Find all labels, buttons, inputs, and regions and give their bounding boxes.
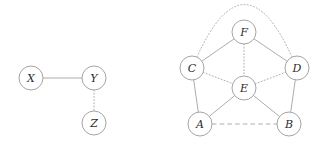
edge-e-b: [253, 95, 279, 116]
node-d[interactable]: D: [285, 56, 309, 80]
edge-c-f: [202, 39, 234, 61]
figure-canvas: XYZFCDEAB: [0, 0, 329, 149]
node-label-a: A: [195, 118, 204, 131]
node-label-f: F: [239, 26, 248, 39]
edge-f-d: [254, 39, 287, 62]
node-label-d: D: [292, 62, 302, 75]
node-f[interactable]: F: [232, 20, 256, 44]
node-label-x: X: [26, 72, 36, 85]
node-label-c: C: [188, 62, 197, 75]
edge-c-e: [203, 72, 233, 83]
edge-d-b: [291, 80, 296, 112]
node-e[interactable]: E: [232, 76, 256, 100]
graph-figure: XYZFCDEAB: [0, 0, 329, 149]
node-a[interactable]: A: [188, 112, 212, 136]
node-z[interactable]: Z: [82, 111, 106, 135]
node-label-b: B: [284, 118, 293, 131]
edge-a-e: [209, 96, 234, 117]
edge-c-a: [194, 80, 199, 112]
node-x[interactable]: X: [19, 66, 43, 90]
edge-e-d: [255, 72, 286, 84]
node-y[interactable]: Y: [82, 66, 106, 90]
node-c[interactable]: C: [180, 56, 204, 80]
node-label-e: E: [239, 82, 248, 95]
edges-layer: [43, 5, 295, 124]
node-label-z: Z: [89, 117, 98, 130]
node-b[interactable]: B: [277, 112, 301, 136]
